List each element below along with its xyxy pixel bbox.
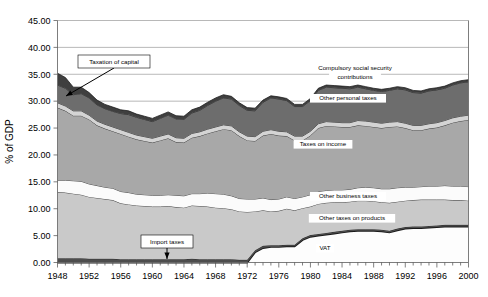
series-label: Compulsory social security [318,64,392,71]
x-tick-label: 1960 [142,271,162,281]
series-label: VAT [319,244,330,251]
series-label: Other personal taxes [319,94,376,101]
x-tick-label: 1948 [47,271,67,281]
x-tick-label: 1972 [237,271,257,281]
y-tick-label: 45.00 [28,16,51,26]
chart-container: 0.005.0010.0015.0020.0025.0030.0035.0040… [0,0,488,297]
y-tick-label: 25.00 [28,123,51,133]
series-label: contributions [337,73,372,80]
x-tick-label: 1992 [395,271,415,281]
x-tick-label: 1988 [364,271,384,281]
x-tick-label: 1984 [332,271,352,281]
stacked-area-chart: 0.005.0010.0015.0020.0025.0030.0035.0040… [0,0,488,297]
x-tick-label: 1996 [427,271,447,281]
annotation-label: Import taxes [150,238,184,245]
x-tick-label: 1952 [79,271,99,281]
series-label: Other business taxes [319,192,377,199]
x-tick-label: 1980 [300,271,320,281]
series-label: Taxes on income [300,140,347,147]
y-axis-title: % of GDP [4,119,15,164]
annotation-label: Taxation of capital [89,58,139,65]
x-tick-label: 1976 [269,271,289,281]
y-tick-label: 35.00 [28,70,51,80]
y-tick-label: 20.00 [28,150,51,160]
y-tick-label: 15.00 [28,177,51,187]
y-tick-label: 0.00 [33,258,51,268]
x-tick-label: 1956 [111,271,131,281]
x-tick-label: 1964 [174,271,194,281]
x-tick-label: 2000 [458,271,478,281]
x-tick-label: 1968 [206,271,226,281]
y-tick-label: 5.00 [33,231,51,241]
y-tick-label: 10.00 [28,204,51,214]
series-label: Other taxes on products [319,214,385,221]
y-tick-label: 30.00 [28,96,51,106]
y-tick-label: 40.00 [28,43,51,53]
